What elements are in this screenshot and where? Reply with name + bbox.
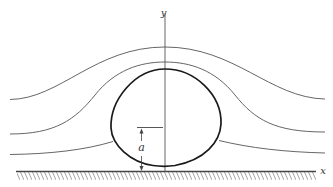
streamline-middle bbox=[10, 62, 325, 134]
streamline-lower-left bbox=[10, 142, 113, 155]
y-axis-label: y bbox=[160, 7, 167, 18]
streamline-outer bbox=[10, 47, 325, 100]
x-axis-label: x bbox=[320, 165, 326, 176]
wall-hatching bbox=[17, 172, 316, 180]
dimension-label-a: a bbox=[138, 141, 145, 154]
arrowhead-up-icon bbox=[140, 129, 144, 134]
arrowhead-down-icon bbox=[140, 166, 144, 171]
closed-body-contour bbox=[111, 69, 221, 166]
diagram-canvas: a y x bbox=[0, 0, 333, 187]
streamline-lower-right bbox=[219, 141, 325, 154]
flow-diagram: a y x bbox=[0, 0, 333, 187]
